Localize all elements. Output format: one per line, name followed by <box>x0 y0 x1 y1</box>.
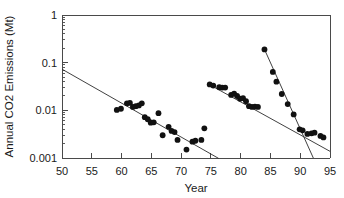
data-point <box>291 112 297 118</box>
y-tick-label: 1 <box>51 9 57 21</box>
data-point <box>262 46 268 52</box>
data-point <box>160 132 166 138</box>
x-tick-label: 90 <box>294 165 306 177</box>
data-points <box>114 46 326 152</box>
scatter-chart: 0.0010.010.11 50556065707580859095 Year … <box>0 0 344 198</box>
x-axis-tick-labels: 50556065707580859095 <box>56 165 336 177</box>
x-tick-label: 70 <box>175 165 187 177</box>
x-tick-label: 60 <box>115 165 127 177</box>
trend-period-1 <box>62 69 219 158</box>
data-point <box>175 137 181 143</box>
data-point <box>255 104 261 110</box>
x-tick-label: 85 <box>264 165 276 177</box>
x-tick-label: 80 <box>235 165 247 177</box>
plot-frame <box>62 15 330 158</box>
data-point <box>118 106 124 112</box>
x-tick-label: 95 <box>324 165 336 177</box>
data-point <box>312 130 318 136</box>
data-point <box>210 83 216 89</box>
x-tick-label: 55 <box>86 165 98 177</box>
y-axis-tick-labels: 0.0010.010.11 <box>29 9 57 164</box>
x-axis-ticks <box>62 153 330 158</box>
data-point <box>243 98 249 104</box>
data-point <box>270 69 276 75</box>
data-point <box>151 119 157 125</box>
x-tick-label: 50 <box>56 165 68 177</box>
x-axis-title: Year <box>184 182 207 194</box>
data-point <box>139 100 145 106</box>
data-point <box>172 129 178 135</box>
data-point <box>198 137 204 143</box>
y-tick-label: 0.001 <box>29 152 57 164</box>
data-point <box>193 138 199 144</box>
y-axis-ticks <box>62 15 68 158</box>
data-point <box>279 91 285 97</box>
y-tick-label: 0.1 <box>42 57 57 69</box>
x-tick-label: 65 <box>145 165 157 177</box>
data-point <box>222 85 228 91</box>
data-point <box>300 127 306 133</box>
data-point <box>201 125 207 131</box>
y-tick-label: 0.01 <box>36 104 57 116</box>
data-point <box>321 135 327 141</box>
trend-period-2 <box>209 84 330 151</box>
y-axis-title: Annual CO2 Emissions (Mt) <box>3 15 15 157</box>
data-point <box>285 101 291 107</box>
x-tick-label: 75 <box>205 165 217 177</box>
data-point <box>274 79 280 85</box>
data-point <box>156 110 162 116</box>
data-point <box>184 147 190 153</box>
chart-figure: 0.0010.010.11 50556065707580859095 Year … <box>0 0 344 198</box>
